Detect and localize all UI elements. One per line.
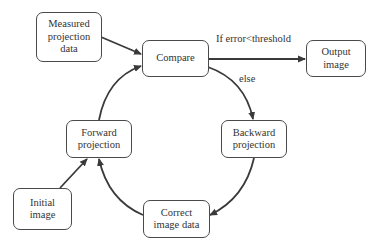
node-forward-projection: Forward projection [66,120,132,158]
node-measured-projection-data: Measured projection data [36,12,102,62]
node-correct-image-data: Correct image data [143,200,210,238]
node-label: Backward projection [233,127,276,152]
node-initial-image: Initial image [13,188,72,230]
edge-forward-to-compare [99,66,141,120]
node-compare: Compare [142,40,209,77]
edge-initial-to-forward [60,159,87,188]
node-label: Compare [156,52,195,65]
node-backward-projection: Backward projection [221,120,287,158]
edge-measured-to-compare [101,37,141,54]
edge-label-threshold: If error<threshold [216,33,291,44]
edge-correct-to-forward [99,159,143,215]
node-label: Forward projection [78,127,121,152]
node-label: Measured projection data [48,18,91,56]
node-label: Initial image [30,197,56,222]
edge-backward-to-correct [210,158,254,215]
node-label: Output image [321,46,350,71]
edge-label-else: else [239,73,255,84]
node-output-image: Output image [306,40,366,77]
node-label: Correct image data [154,207,200,232]
